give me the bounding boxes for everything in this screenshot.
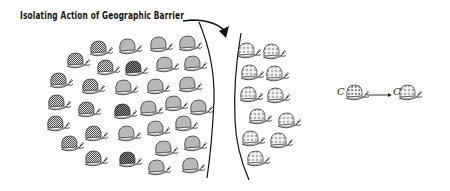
snail-icon <box>50 73 73 88</box>
snail-icon <box>115 80 138 95</box>
snail-icon <box>247 151 270 166</box>
snail-icon <box>78 102 101 117</box>
snail-icon <box>150 37 173 52</box>
snail-icon <box>240 87 263 102</box>
snail-icon <box>147 79 170 94</box>
snail-icon <box>155 141 178 156</box>
snail-icon <box>278 113 301 128</box>
snail-icon <box>82 79 105 94</box>
snail-icon <box>147 121 170 136</box>
diagram-canvas: Isolating Action of Geographic Barrier <box>0 0 450 191</box>
snail-icon <box>179 77 202 92</box>
snail-icon <box>184 56 207 71</box>
snail-icon <box>67 53 90 68</box>
snail-icon <box>119 39 142 54</box>
label-c-prime: C′ <box>393 86 403 97</box>
snail-icon <box>346 85 369 100</box>
snail-icon <box>238 43 261 58</box>
snail-icon <box>242 131 265 146</box>
barrier-arrow <box>183 20 229 38</box>
snail-icon <box>61 136 84 151</box>
snail-icon <box>118 126 141 141</box>
snail-icon <box>47 116 70 131</box>
snail-icon <box>184 136 207 151</box>
diagram-svg <box>0 0 450 191</box>
snail-icon <box>97 60 120 75</box>
transition-legend <box>346 85 422 100</box>
snail-icon <box>90 41 113 56</box>
snail-icon <box>241 65 264 80</box>
snail-icon <box>182 158 205 173</box>
snail-icon <box>119 152 142 167</box>
snail-icon <box>156 57 179 72</box>
snail-icon <box>165 96 188 111</box>
snail-icon <box>140 101 163 116</box>
isolated-population <box>238 43 301 166</box>
snail-icon <box>190 100 213 115</box>
snail-icon <box>48 95 71 110</box>
snail-icon <box>266 66 289 81</box>
snail-icon <box>85 126 108 141</box>
original-population <box>47 36 213 175</box>
snail-icon <box>267 88 290 103</box>
snail-icon <box>263 44 286 59</box>
snail-icon <box>249 109 272 124</box>
snail-icon <box>85 151 108 166</box>
label-c: C <box>337 86 345 97</box>
snail-icon <box>148 160 171 175</box>
snail-icon <box>125 61 148 76</box>
snail-icon <box>270 133 293 148</box>
snail-icon <box>114 104 137 119</box>
snail-icon <box>179 36 202 51</box>
snail-icon <box>175 116 198 131</box>
